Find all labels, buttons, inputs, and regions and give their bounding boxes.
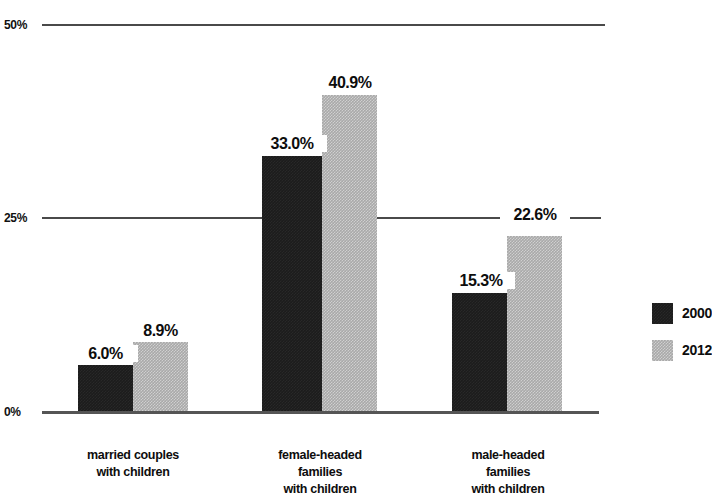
chart-legend: 2000 2012 [652, 303, 712, 377]
legend-label-2012: 2012 [682, 342, 712, 358]
bar-2012-female-headed [322, 95, 377, 411]
category-label-line: female-headed [240, 447, 400, 464]
category-label-line: with children [428, 481, 588, 498]
legend-swatch-2000 [652, 303, 673, 324]
bar-2000-married-couples [78, 365, 133, 411]
bar-value-2000-male-headed: 15.3% [447, 272, 515, 289]
legend-swatch-2012 [652, 340, 673, 361]
gridline-50 [42, 24, 605, 26]
category-label-line: families [428, 464, 588, 481]
legend-item-2012: 2012 [652, 340, 712, 362]
category-label-line: married couples [53, 447, 213, 464]
bar-value-2012-female-headed: 40.9% [315, 74, 385, 91]
category-label-line: families [240, 464, 400, 481]
bar-2012-married-couples [133, 342, 188, 411]
category-label-line: with children [240, 481, 400, 498]
legend-item-2000: 2000 [652, 303, 712, 325]
category-label-line: male-headed [428, 447, 588, 464]
axis-baseline [42, 411, 599, 414]
y-axis-tick-25: 25% [4, 211, 27, 225]
bar-2000-female-headed [262, 156, 322, 411]
y-axis-tick-0: 0% [4, 405, 21, 419]
bar-value-2000-female-headed: 33.0% [257, 135, 327, 152]
category-label-line: with children [53, 464, 213, 481]
bar-value-2012-male-headed: 22.6% [500, 206, 570, 223]
legend-label-2000: 2000 [682, 305, 712, 321]
bar-value-2000-married-couples: 6.0% [73, 345, 138, 362]
bar-value-2012-married-couples: 8.9% [128, 322, 193, 339]
category-label-male-headed: male-headed families with children [428, 447, 588, 498]
y-axis-tick-50: 50% [4, 18, 27, 32]
category-label-married-couples: married couples with children [53, 447, 213, 481]
category-label-female-headed: female-headed families with children [240, 447, 400, 498]
bar-2000-male-headed [452, 293, 507, 411]
bar-2012-male-headed [507, 236, 562, 411]
